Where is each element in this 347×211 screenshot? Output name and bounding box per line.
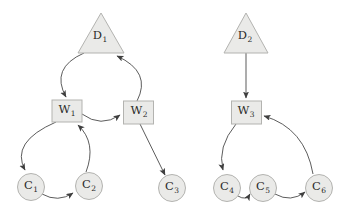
edge-w1-c1: [21, 122, 56, 170]
node-c5-base: C: [256, 179, 265, 193]
edge-c2-w1: [78, 125, 90, 172]
node-d2-sub: 2: [247, 34, 252, 43]
diagram-canvas: D1 D2 W1 W2 W3 C1 C2 C3 C4 C5 C6: [0, 0, 347, 211]
edge-c4-c5: [238, 194, 250, 198]
node-d1-label: D1: [93, 30, 108, 43]
node-w3-base: W: [237, 103, 249, 117]
node-w2-sub: 2: [143, 109, 148, 118]
node-c5-label: C5: [256, 181, 270, 194]
edge-w3-c4: [222, 124, 236, 170]
edge-w2-d1: [117, 56, 142, 101]
node-c1-label: C1: [24, 180, 38, 193]
edge-c5-c6: [275, 192, 305, 198]
node-c3-sub: 3: [174, 185, 179, 194]
node-c4-label: C4: [220, 181, 234, 194]
node-w1-label: W1: [58, 104, 75, 117]
edge-d1-w1: [61, 53, 84, 97]
edge-c1-c2: [42, 193, 73, 198]
node-c3-label: C3: [165, 181, 179, 194]
node-c4-sub: 4: [229, 185, 234, 194]
node-d2-label: D2: [238, 30, 253, 43]
node-w3-label: W3: [237, 105, 254, 118]
edge-w1-w2: [82, 114, 120, 121]
node-w1-sub: 1: [71, 108, 76, 117]
node-d1-base: D: [93, 28, 102, 42]
node-c2-label: C2: [82, 179, 96, 192]
node-c3-base: C: [165, 179, 174, 193]
node-d2-base: D: [238, 28, 247, 42]
node-w2-base: W: [130, 103, 142, 117]
node-c6-sub: 6: [321, 185, 326, 194]
node-c4-base: C: [220, 179, 229, 193]
edge-w2-c3: [140, 124, 165, 175]
node-c1-sub: 1: [33, 184, 38, 193]
node-c5-sub: 5: [265, 185, 270, 194]
node-w1-base: W: [58, 102, 70, 116]
node-c2-sub: 2: [91, 183, 96, 192]
edge-c6-w3: [264, 116, 313, 174]
node-c6-label: C6: [312, 181, 326, 194]
node-c2-base: C: [82, 177, 91, 191]
node-c6-base: C: [312, 179, 321, 193]
node-d1-sub: 1: [102, 34, 107, 43]
node-w2-label: W2: [130, 105, 147, 118]
node-c1-base: C: [24, 178, 33, 192]
node-w3-sub: 3: [250, 109, 255, 118]
